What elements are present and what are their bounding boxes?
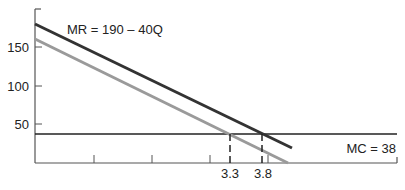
mr-equation-label: MR = 190 – 40Q — [67, 22, 163, 37]
y-label-100: 100 — [7, 79, 29, 94]
y-label-150: 150 — [7, 40, 29, 55]
gray-mr-line — [35, 39, 288, 163]
mr-line — [35, 24, 292, 148]
chart: 150 100 50 3.3 3.8 MR = 190 – 40Q MC = 3… — [0, 0, 405, 190]
y-label-50: 50 — [15, 117, 29, 132]
x-label-3-3: 3.3 — [221, 166, 239, 181]
mc-equation-label: MC = 38 — [347, 141, 397, 156]
x-label-3-8: 3.8 — [254, 166, 272, 181]
